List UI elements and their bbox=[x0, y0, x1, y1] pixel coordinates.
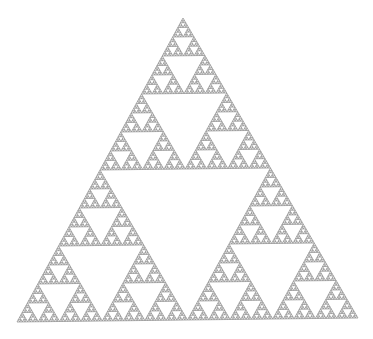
sierpinski-triangle bbox=[0, 0, 373, 339]
fractal-triangles bbox=[17, 18, 358, 322]
triangle-outlines bbox=[17, 18, 358, 322]
